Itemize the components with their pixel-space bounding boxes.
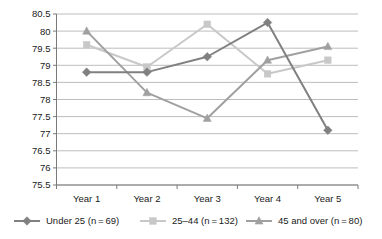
- y-tick-label: 76: [40, 162, 51, 173]
- y-tick-label: 80.5: [32, 8, 51, 19]
- legend-label: 45 and over (n = 80): [278, 215, 362, 226]
- y-tick-label: 79: [40, 60, 51, 71]
- y-tick-labels: 80.58079.57978.57877.57776.57675.5: [32, 8, 51, 190]
- x-tick-labels: Year 1Year 2Year 3Year 4Year 5: [73, 193, 341, 204]
- chart-legend: Under 25 (n = 69)25–44 (n = 132)45 and o…: [14, 215, 362, 226]
- legend-item-1[interactable]: Under 25 (n = 69): [14, 215, 119, 226]
- y-tick-label: 78.5: [32, 77, 51, 88]
- marker-square: [264, 71, 271, 78]
- y-tick-label: 77: [40, 128, 51, 139]
- series-3: [83, 27, 332, 122]
- marker-square: [150, 218, 157, 225]
- y-axis: [53, 14, 57, 185]
- y-tick-label: 76.5: [32, 145, 51, 156]
- series-lines: [82, 18, 332, 134]
- x-tick-label: Year 1: [73, 193, 100, 204]
- x-tick-label: Year 5: [314, 193, 341, 204]
- legend-item-2[interactable]: 25–44 (n = 132): [140, 215, 238, 226]
- chart-svg: 80.58079.57978.57877.57776.57675.5 Year …: [0, 0, 382, 239]
- line-chart: 80.58079.57978.57877.57776.57675.5 Year …: [0, 0, 382, 239]
- legend-label: Under 25 (n = 69): [46, 215, 119, 226]
- marker-square: [325, 57, 332, 64]
- y-tick-label: 77.5: [32, 111, 51, 122]
- marker-diamond: [203, 52, 212, 61]
- series-line: [87, 31, 328, 118]
- grid-lines: [57, 14, 359, 185]
- x-axis: [57, 185, 359, 189]
- x-tick-label: Year 4: [254, 193, 281, 204]
- marker-triangle: [324, 42, 332, 49]
- legend-label: 25–44 (n = 132): [172, 215, 238, 226]
- marker-triangle: [83, 27, 91, 34]
- marker-diamond: [82, 68, 91, 77]
- marker-square: [204, 21, 211, 28]
- legend-item-3[interactable]: 45 and over (n = 80): [246, 215, 362, 226]
- x-tick-label: Year 2: [133, 193, 160, 204]
- x-tick-label: Year 3: [194, 193, 221, 204]
- y-tick-label: 80: [40, 26, 51, 37]
- marker-diamond: [263, 18, 272, 27]
- marker-diamond: [23, 217, 32, 226]
- y-tick-label: 79.5: [32, 43, 51, 54]
- y-tick-label: 75.5: [32, 179, 51, 190]
- marker-square: [83, 41, 90, 48]
- y-tick-label: 78: [40, 94, 51, 105]
